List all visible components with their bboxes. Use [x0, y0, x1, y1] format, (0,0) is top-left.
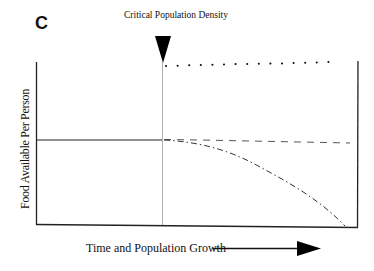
series-declining-dashdot	[164, 140, 345, 226]
critical-density-arrow-icon	[155, 36, 171, 63]
right-axis	[358, 61, 359, 228]
time-arrow-head-icon	[297, 241, 321, 256]
plot-area	[0, 0, 374, 271]
x-axis	[36, 225, 358, 228]
series-upper-dotted	[166, 62, 330, 66]
